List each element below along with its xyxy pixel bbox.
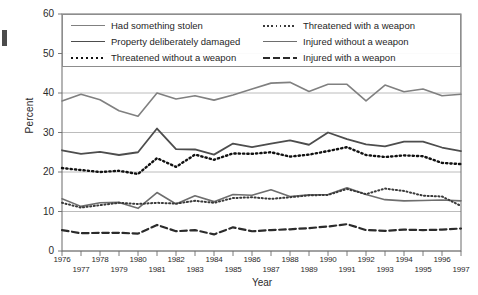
legend-item-label: Injured with a weapon <box>303 52 395 63</box>
y-tick-label: 10 <box>28 206 54 217</box>
x-tick-label: 1982 <box>156 255 196 264</box>
series-line-5 <box>62 224 461 234</box>
legend-item-label: Threatened without a weapon <box>111 52 236 63</box>
x-tick-label: 1987 <box>251 265 291 274</box>
y-tick-label: 30 <box>28 127 54 138</box>
x-tick-label: 1988 <box>270 255 310 264</box>
x-tick-label: 1991 <box>327 265 367 274</box>
chart-figure: Percent Year Had something stolenPropert… <box>0 0 478 295</box>
x-tick-label: 1976 <box>42 255 82 264</box>
y-tick-label: 50 <box>28 48 54 59</box>
legend-item: Threatened without a weapon <box>71 50 236 65</box>
x-tick-label: 1997 <box>441 265 478 274</box>
x-tick-label: 1994 <box>384 255 424 264</box>
y-tick-label: 20 <box>28 166 54 177</box>
x-tick-label: 1986 <box>232 255 272 264</box>
legend-item-label: Threatened with a weapon <box>303 20 415 31</box>
legend-item-label: Injured without a weapon <box>303 36 409 47</box>
x-tick-label: 1979 <box>99 265 139 274</box>
legend-swatch-icon <box>71 37 105 47</box>
x-tick-label: 1992 <box>346 255 386 264</box>
series-line-0 <box>62 82 461 116</box>
legend-swatch-icon <box>263 37 297 47</box>
series-line-2 <box>62 147 461 174</box>
y-tick-label: 40 <box>28 87 54 98</box>
legend-swatch-icon <box>263 53 297 63</box>
x-tick-label: 1990 <box>308 255 348 264</box>
legend-item-label: Had something stolen <box>111 20 203 31</box>
legend-swatch-icon <box>71 21 105 31</box>
x-tick-label: 1985 <box>213 265 253 274</box>
x-tick-label: 1984 <box>194 255 234 264</box>
x-tick-label: 1993 <box>365 265 405 274</box>
legend-swatch-icon <box>263 21 297 31</box>
x-tick-label: 1983 <box>175 265 215 274</box>
y-tick-label: 60 <box>28 8 54 19</box>
x-tick-label: 1977 <box>61 265 101 274</box>
legend-item: Threatened with a weapon <box>263 18 415 33</box>
x-tick-label: 1978 <box>80 255 120 264</box>
series-line-4 <box>62 189 461 208</box>
x-tick-label: 1989 <box>289 265 329 274</box>
legend-swatch-icon <box>71 53 105 63</box>
legend-item: Had something stolen <box>71 18 203 33</box>
x-tick-label: 1980 <box>118 255 158 264</box>
chart-legend: Had something stolenProperty deliberatel… <box>62 14 461 67</box>
x-tick-label: 1996 <box>422 255 462 264</box>
x-tick-label: 1995 <box>403 265 443 274</box>
legend-item: Property deliberately damaged <box>71 34 240 49</box>
legend-item: Injured without a weapon <box>263 34 409 49</box>
legend-item: Injured with a weapon <box>263 50 395 65</box>
x-tick-label: 1981 <box>137 265 177 274</box>
legend-item-label: Property deliberately damaged <box>111 36 240 47</box>
